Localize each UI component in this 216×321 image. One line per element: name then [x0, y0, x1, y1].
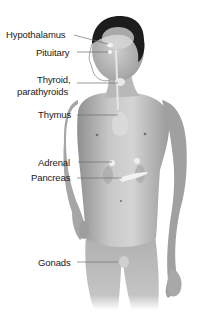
label-adrenal: Adrenal [38, 157, 70, 168]
label-pituitary: Pituitary [36, 47, 69, 58]
adrenal-right [134, 158, 140, 164]
endocrine-diagram: Hypothalamus Pituitary Thyroid, parathyr… [0, 0, 216, 321]
hypothalamus-gland [107, 43, 113, 47]
label-parathyroids: parathyroids [17, 86, 68, 97]
label-pancreas: Pancreas [31, 172, 70, 183]
brain-overlay [102, 27, 134, 49]
label-thyroid: Thyroid, [37, 74, 71, 85]
adrenal-left [109, 160, 115, 166]
human-figure-illustration [0, 0, 216, 321]
pituitary-gland [108, 50, 112, 54]
kidney-left [103, 166, 113, 184]
label-hypothalamus: Hypothalamus [6, 29, 66, 40]
gonads-gland [119, 256, 129, 268]
thyroid-gland [115, 78, 125, 86]
label-thymus: Thymus [38, 109, 71, 120]
label-gonads: Gonads [38, 257, 71, 268]
